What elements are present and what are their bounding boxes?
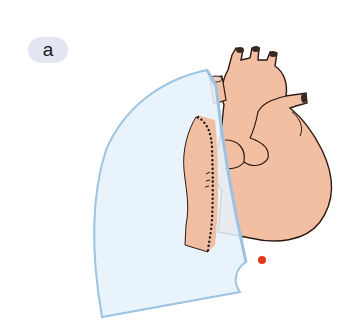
- figure-canvas: a: [0, 0, 364, 329]
- red-marker-dot: [258, 256, 266, 264]
- vessel-opening: [269, 51, 277, 57]
- vessel-opening: [301, 93, 307, 103]
- heart-lung-illustration: [0, 0, 364, 329]
- vessel-opening: [236, 47, 244, 53]
- vessel-opening: [252, 46, 260, 52]
